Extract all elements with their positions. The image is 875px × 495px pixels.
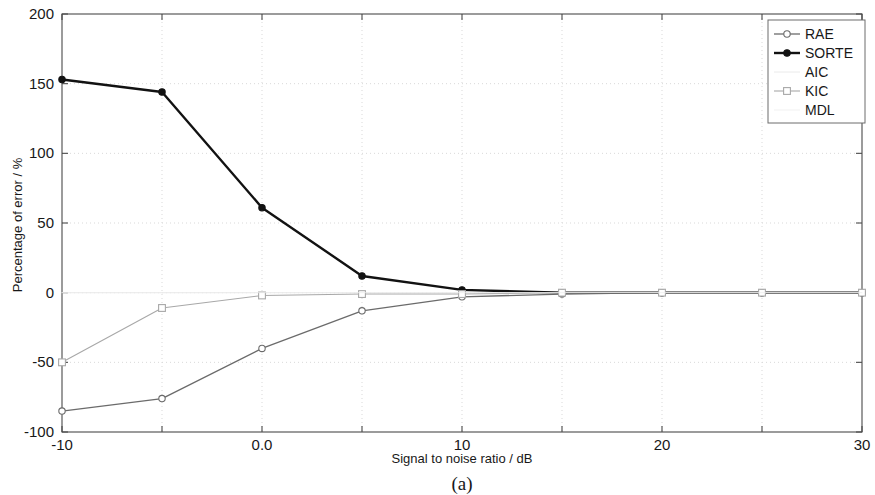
data-point-marker: [359, 273, 365, 279]
data-point-marker: [359, 308, 365, 314]
data-point-marker: [784, 88, 791, 95]
y-tick-label: 150: [29, 75, 54, 92]
x-tick-label: -10: [51, 436, 73, 453]
x-axis-title: Signal to noise ratio / dB: [392, 451, 533, 466]
data-point-marker: [59, 408, 65, 414]
series-rae: [59, 289, 865, 414]
x-tick-label: 20: [654, 436, 671, 453]
x-tick-label: 0.0: [252, 436, 273, 453]
data-point-marker: [259, 204, 265, 210]
y-tick-label: -100: [24, 423, 54, 440]
y-tick-label: -50: [32, 353, 54, 370]
data-point-marker: [359, 291, 366, 298]
data-point-marker: [784, 50, 790, 56]
gridlines: [62, 14, 862, 432]
y-axis-title: Percentage of error / %: [10, 157, 25, 292]
data-point-marker: [59, 359, 66, 366]
legend-label: AIC: [805, 64, 828, 80]
y-tick-label: 200: [29, 5, 54, 22]
legend-label: RAE: [805, 26, 834, 42]
data-point-marker: [784, 31, 790, 37]
data-point-marker: [259, 292, 266, 299]
data-point-marker: [159, 89, 165, 95]
legend-label: MDL: [805, 102, 835, 118]
data-point-marker: [159, 395, 165, 401]
data-point-marker: [459, 291, 466, 298]
figure-caption: (a): [451, 473, 472, 495]
line-chart: -100.0102030-100-50050100150200 RAESORTE…: [0, 0, 875, 495]
axis-tick-labels: -100.0102030-100-50050100150200: [24, 5, 870, 453]
y-tick-label: 0: [46, 284, 54, 301]
x-tick-label: 30: [854, 436, 871, 453]
chart-legend: RAESORTEAICKICMDL: [768, 20, 865, 123]
data-point-marker: [59, 76, 65, 82]
data-point-marker: [259, 345, 265, 351]
y-tick-label: 50: [37, 214, 54, 231]
figure-panel: -100.0102030-100-50050100150200 RAESORTE…: [0, 0, 875, 495]
legend-label: KIC: [805, 83, 828, 99]
y-tick-label: 100: [29, 144, 54, 161]
data-point-marker: [159, 305, 166, 312]
legend-label: SORTE: [805, 45, 853, 61]
